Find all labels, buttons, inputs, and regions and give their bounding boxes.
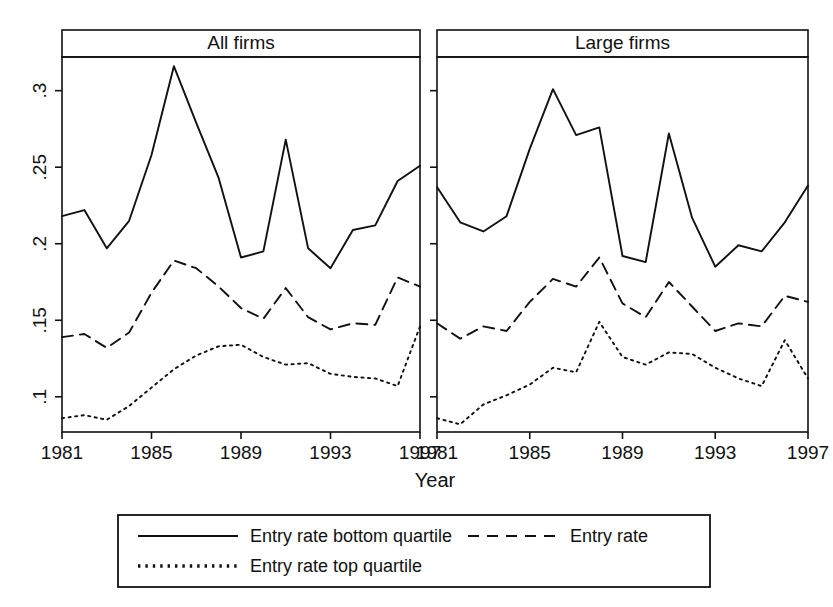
chart-canvas: All firms19811985198919931997.1.15.2.25.… — [0, 0, 833, 607]
entry-rate-figure: All firms19811985198919931997.1.15.2.25.… — [0, 0, 833, 607]
y-tick-label: .15 — [29, 307, 50, 333]
y-tick-label: .25 — [29, 154, 50, 180]
panel-title-large: Large firms — [575, 32, 670, 53]
x-tick-label: 1993 — [694, 442, 736, 463]
series-solid — [437, 89, 808, 267]
x-tick-label: 1985 — [130, 442, 172, 463]
legend-label: Entry rate bottom quartile — [250, 526, 452, 546]
x-axis-title: Year — [415, 469, 456, 491]
y-tick-label: .2 — [29, 236, 50, 252]
legend: Entry rate bottom quartileEntry rateEntr… — [118, 515, 710, 587]
x-tick-label: 1981 — [416, 442, 458, 463]
panel-all: All firms19811985198919931997.1.15.2.25.… — [29, 30, 441, 463]
x-tick-label: 1993 — [309, 442, 351, 463]
series-solid — [62, 66, 420, 268]
x-tick-label: 1985 — [509, 442, 551, 463]
series-dotted — [437, 322, 808, 425]
series-dotted — [62, 326, 420, 419]
series-dashed — [437, 258, 808, 339]
legend-label: Entry rate — [570, 526, 648, 546]
x-tick-label: 1989 — [601, 442, 643, 463]
x-tick-label: 1981 — [41, 442, 83, 463]
x-tick-label: 1989 — [220, 442, 262, 463]
legend-label: Entry rate top quartile — [250, 556, 422, 576]
plot-frame — [62, 57, 420, 432]
y-tick-label: .3 — [29, 83, 50, 99]
panel-title-all: All firms — [207, 32, 275, 53]
y-tick-label: .1 — [29, 389, 50, 405]
series-dashed — [62, 261, 420, 348]
panel-large: Large firms19811985198919931997 — [416, 30, 829, 463]
x-tick-label: 1997 — [787, 442, 829, 463]
plot-frame — [437, 57, 808, 432]
